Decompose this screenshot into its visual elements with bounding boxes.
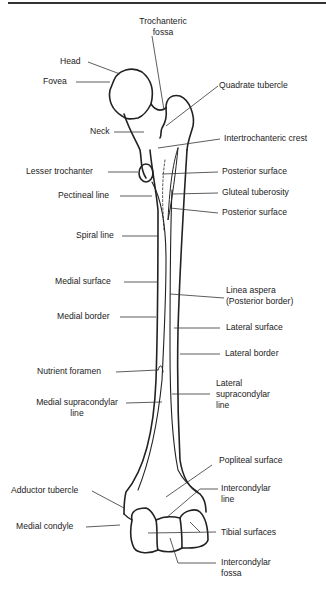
gluteal-tuberosity-shape: [168, 148, 178, 220]
label-lateral-supracondylar-line: Lateral supracondylar line: [216, 378, 270, 411]
label-line: line: [26, 408, 128, 419]
label-quadrate-tubercle: Quadrate tubercle: [219, 80, 288, 91]
label-line: (Posterior border): [226, 296, 293, 307]
leader-gluteal-tuberosity: [172, 193, 218, 194]
leader-medial-supracondylar: [126, 402, 162, 403]
label-posterior-surface-1: Posterior surface: [222, 166, 287, 177]
label-line: supracondylar: [216, 389, 270, 400]
label-line: Medial supracondylar: [26, 397, 128, 408]
label-line: Lateral: [216, 378, 270, 389]
label-trochanteric-fossa: Trochanteric fossa: [128, 16, 198, 38]
label-line: Linea aspera: [226, 285, 293, 296]
label-intertrochanteric-crest: Intertrochanteric crest: [224, 133, 307, 144]
intercondylar-region: [156, 517, 182, 552]
label-medial-condyle: Medial condyle: [16, 521, 73, 532]
leader-posterior-surface-2: [170, 208, 218, 213]
label-nutrient-foramen: Nutrient foramen: [37, 366, 101, 377]
neck-outline: [124, 114, 146, 178]
label-spiral-line: Spiral line: [76, 230, 114, 241]
label-intercondylar-fossa: Intercondylar fossa: [221, 557, 271, 579]
lateral-condyle-outline: [180, 510, 208, 548]
leader-adductor-tubercle: [92, 491, 124, 508]
label-posterior-surface-2: Posterior surface: [222, 207, 287, 218]
label-fovea: Fovea: [43, 76, 67, 87]
label-tibial-surfaces: Tibial surfaces: [221, 527, 276, 538]
label-line: Intercondylar: [221, 557, 271, 568]
leader-posterior-surface-1: [162, 172, 218, 174]
leader-head: [88, 62, 120, 74]
medial-condyle-outline: [131, 508, 158, 553]
label-medial-border: Medial border: [57, 311, 110, 322]
label-line: Trochanteric: [128, 16, 198, 27]
label-lateral-border: Lateral border: [225, 348, 279, 359]
label-line: fossa: [221, 568, 271, 579]
label-medial-surface: Medial surface: [55, 276, 111, 287]
leader-tibial-surfaces: [148, 532, 216, 533]
label-line: line: [216, 400, 270, 411]
label-gluteal-tuberosity: Gluteal tuberosity: [222, 187, 289, 198]
lateral-border-line: [178, 150, 206, 512]
leader-quadrate-tubercle: [166, 86, 218, 126]
medial-border-line: [124, 150, 158, 514]
label-line: Intercondylar: [221, 483, 271, 494]
label-line: fossa: [128, 27, 198, 38]
label-adductor-tubercle: Adductor tubercle: [11, 485, 78, 496]
lesser-trochanter-shape: [139, 164, 153, 182]
leader-medial-condyle: [86, 525, 120, 527]
leader-trochanteric-fossa: [152, 36, 164, 110]
label-line: line: [221, 494, 271, 505]
label-popliteal-surface: Popliteal surface: [219, 455, 283, 466]
label-medial-supracondylar-line: Medial supracondylar line: [26, 397, 128, 419]
leader-linea-aspera: [170, 294, 224, 298]
label-linea-aspera: Linea aspera (Posterior border): [226, 285, 293, 307]
label-intercondylar-line: Intercondylar line: [221, 483, 271, 505]
label-neck: Neck: [90, 126, 110, 137]
label-pectineal-line: Pectineal line: [58, 190, 109, 201]
label-lateral-surface: Lateral surface: [226, 322, 283, 333]
label-lesser-trochanter: Lesser trochanter: [26, 166, 93, 177]
leader-tibial-surfaces-2: [190, 522, 200, 532]
leader-popliteal-surface: [166, 465, 212, 497]
leader-nutrient-foramen: [116, 370, 158, 372]
label-head: Head: [60, 56, 81, 67]
femoral-head-outline: [110, 69, 153, 119]
